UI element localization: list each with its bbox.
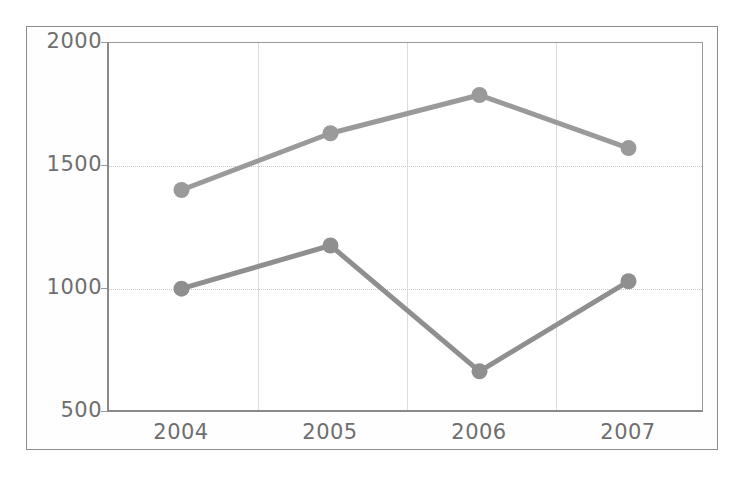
x-axis-tick-labels: 2004 2005 2006 2007	[0, 422, 751, 456]
plot-area	[107, 42, 703, 412]
gridline-x-2007	[556, 43, 557, 410]
x-tick-label-2004: 2004	[153, 422, 208, 443]
y-tick-label-2000: 2000	[47, 31, 102, 52]
gridline-1500	[109, 166, 702, 167]
gridline-x-2005	[258, 43, 259, 410]
gridline-x-2006	[407, 43, 408, 410]
y-axis-tick-labels: 2000 1500 1000 500	[30, 0, 102, 484]
line-chart-figure: 2000 1500 1000 500 2004 2005 2006 2007	[0, 0, 751, 484]
x-tick-label-2007: 2007	[600, 422, 655, 443]
y-tick-label-1500: 1500	[47, 154, 102, 175]
y-tick-label-500: 500	[60, 400, 102, 421]
y-tick-label-1000: 1000	[47, 277, 102, 298]
x-tick-label-2006: 2006	[451, 422, 506, 443]
x-tick-label-2005: 2005	[302, 422, 357, 443]
gridline-1000	[109, 289, 702, 290]
